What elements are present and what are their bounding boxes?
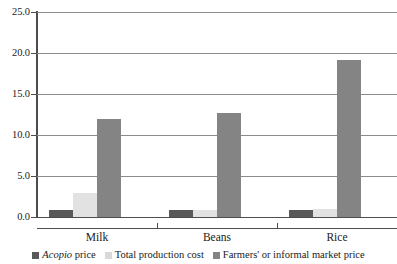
bar-beans-series-1 bbox=[193, 210, 217, 217]
legend-swatch-icon-1 bbox=[105, 252, 112, 259]
y-tick-mark-10.0 bbox=[31, 135, 36, 136]
y-axis-tick-labels: 0.05.010.015.020.025.0 bbox=[0, 0, 30, 264]
legend-item-2[interactable]: Farmers' or informal market price bbox=[213, 249, 365, 261]
x-axis-line bbox=[37, 228, 397, 229]
legend-label-1: Total production cost bbox=[115, 249, 204, 261]
bars-layer bbox=[37, 12, 397, 217]
bar-rice-series-2 bbox=[337, 60, 361, 217]
y-tick-mark-20.0 bbox=[31, 53, 36, 54]
chart-legend: Acopio priceTotal production costFarmers… bbox=[0, 248, 397, 262]
bar-group-beans bbox=[157, 12, 277, 217]
bar-beans-series-0 bbox=[169, 210, 193, 217]
y-tick-mark-5.0 bbox=[31, 176, 36, 177]
bar-rice-series-1 bbox=[313, 209, 337, 217]
legend-swatch-icon-0 bbox=[32, 252, 39, 259]
y-tick-label-15.0: 15.0 bbox=[0, 89, 30, 99]
y-tick-label-5.0: 5.0 bbox=[0, 171, 30, 181]
bar-group-rice bbox=[277, 12, 397, 217]
bar-milk-series-2 bbox=[97, 119, 121, 217]
legend-item-1[interactable]: Total production cost bbox=[105, 249, 204, 261]
x-tick-mark-1 bbox=[157, 223, 158, 228]
legend-item-0[interactable]: Acopio price bbox=[32, 249, 95, 261]
bar-group-milk bbox=[37, 12, 157, 217]
x-label-rice: Rice bbox=[277, 230, 397, 244]
y-tick-mark-25.0 bbox=[31, 12, 36, 13]
bar-beans-series-2 bbox=[217, 113, 241, 217]
y-tick-mark-15.0 bbox=[31, 94, 36, 95]
x-label-milk: Milk bbox=[37, 230, 157, 244]
legend-swatch-icon-2 bbox=[213, 252, 220, 259]
bar-rice-series-0 bbox=[289, 210, 313, 217]
bar-milk-series-1 bbox=[73, 193, 97, 217]
y-tick-label-0.0: 0.0 bbox=[0, 212, 30, 222]
x-tick-mark-2 bbox=[277, 223, 278, 228]
bar-milk-series-0 bbox=[49, 210, 73, 217]
chart-figure: 0.05.010.015.020.025.0 MilkBeansRice Aco… bbox=[0, 0, 397, 264]
legend-label-italic-0: Acopio bbox=[42, 249, 72, 260]
legend-label-2: Farmers' or informal market price bbox=[223, 249, 365, 261]
gridline-0.0 bbox=[37, 217, 397, 218]
y-tick-label-25.0: 25.0 bbox=[0, 7, 30, 17]
x-label-beans: Beans bbox=[157, 230, 277, 244]
y-tick-label-10.0: 10.0 bbox=[0, 130, 30, 140]
y-tick-label-20.0: 20.0 bbox=[0, 48, 30, 58]
y-tick-mark-0.0 bbox=[31, 217, 36, 218]
legend-label-0: Acopio price bbox=[42, 249, 95, 261]
